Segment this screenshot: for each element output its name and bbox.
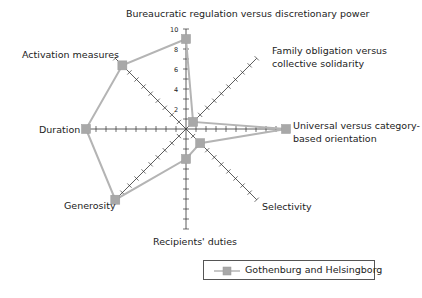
axis-label-family-line2: collective solidarity	[272, 58, 364, 70]
tick-label-8: 8	[174, 44, 178, 56]
tick-label-2: 2	[174, 104, 178, 116]
data-point-marker	[282, 125, 291, 134]
tick-label-10: 10	[170, 24, 178, 36]
axis-label-generosity: Generosity	[64, 200, 116, 212]
axis-label-universal-line1: Universal versus category-	[293, 120, 420, 132]
axis-label-activation: Activation measures	[22, 49, 119, 61]
data-point-marker	[182, 155, 191, 164]
legend-marker-icon	[208, 262, 248, 280]
axis-label-family-line1: Family obligation versus	[272, 45, 387, 57]
axis-label-duration: Duration	[39, 124, 80, 136]
data-point-marker	[182, 35, 191, 44]
tick-label-4: 4	[174, 84, 178, 96]
legend-label: Gothenburg and Helsingborg	[245, 264, 382, 276]
data-point-marker	[118, 61, 127, 70]
data-point-marker	[82, 125, 91, 134]
data-point-marker	[189, 117, 198, 126]
axis-label-selectivity: Selectivity	[262, 201, 312, 213]
axis-label-recipients-duties: Recipients' duties	[153, 236, 237, 248]
tick-label-6: 6	[174, 64, 178, 76]
data-point-marker	[196, 139, 205, 148]
legend: Gothenburg and Helsingborg	[203, 260, 375, 280]
axis-label-universal-line2: based orientation	[293, 133, 377, 145]
axis-label-bureaucratic: Bureaucratic regulation versus discretio…	[126, 8, 369, 20]
